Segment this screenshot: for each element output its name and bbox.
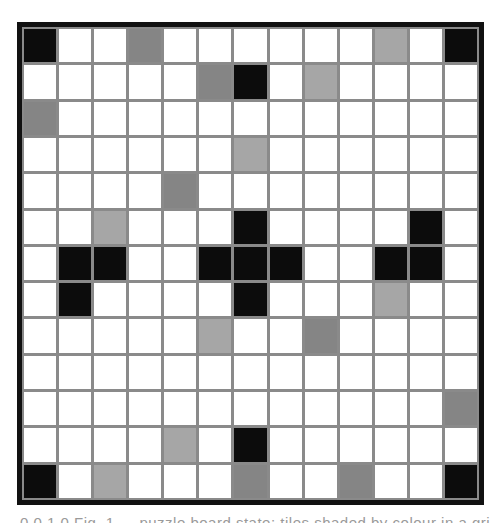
board-cell-r10-c11[interactable] — [410, 392, 442, 425]
board-cell-r4-c10[interactable] — [375, 174, 407, 207]
board-cell-r4-c12[interactable] — [445, 174, 477, 207]
board-cell-r1-c1[interactable] — [59, 65, 91, 98]
board-cell-r3-c5[interactable] — [199, 138, 231, 171]
board-cell-r0-c4[interactable] — [164, 29, 196, 62]
board-cell-r4-c2[interactable] — [94, 174, 126, 207]
board-cell-r9-c0[interactable] — [24, 356, 56, 389]
board-cell-r5-c10[interactable] — [375, 211, 407, 244]
board-cell-r6-c4[interactable] — [164, 247, 196, 280]
board-cell-r9-c8[interactable] — [305, 356, 337, 389]
board-cell-r10-c4[interactable] — [164, 392, 196, 425]
board-cell-r7-c7[interactable] — [270, 283, 302, 316]
board-cell-r5-c6[interactable] — [234, 211, 266, 244]
board-cell-r11-c0[interactable] — [24, 428, 56, 461]
board-cell-r7-c2[interactable] — [94, 283, 126, 316]
board-cell-r0-c12[interactable] — [445, 29, 477, 62]
board-cell-r5-c5[interactable] — [199, 211, 231, 244]
board-cell-r5-c2[interactable] — [94, 211, 126, 244]
board-cell-r7-c8[interactable] — [305, 283, 337, 316]
board-cell-r2-c9[interactable] — [340, 102, 372, 135]
board-cell-r9-c2[interactable] — [94, 356, 126, 389]
board-cell-r3-c2[interactable] — [94, 138, 126, 171]
board-cell-r12-c7[interactable] — [270, 465, 302, 498]
board-cell-r12-c6[interactable] — [234, 465, 266, 498]
board-cell-r5-c4[interactable] — [164, 211, 196, 244]
board-cell-r2-c8[interactable] — [305, 102, 337, 135]
board-cell-r2-c11[interactable] — [410, 102, 442, 135]
board-cell-r8-c2[interactable] — [94, 319, 126, 352]
board-cell-r10-c10[interactable] — [375, 392, 407, 425]
board-cell-r7-c1[interactable] — [59, 283, 91, 316]
board-cell-r8-c12[interactable] — [445, 319, 477, 352]
board-cell-r1-c2[interactable] — [94, 65, 126, 98]
board-cell-r0-c7[interactable] — [270, 29, 302, 62]
board-cell-r10-c8[interactable] — [305, 392, 337, 425]
board-cell-r4-c9[interactable] — [340, 174, 372, 207]
board-cell-r10-c9[interactable] — [340, 392, 372, 425]
board-cell-r1-c12[interactable] — [445, 65, 477, 98]
board-cell-r5-c0[interactable] — [24, 211, 56, 244]
board-cell-r5-c9[interactable] — [340, 211, 372, 244]
board-cell-r9-c5[interactable] — [199, 356, 231, 389]
board-cell-r6-c5[interactable] — [199, 247, 231, 280]
board-cell-r8-c8[interactable] — [305, 319, 337, 352]
board-cell-r5-c1[interactable] — [59, 211, 91, 244]
board-cell-r4-c11[interactable] — [410, 174, 442, 207]
board-cell-r9-c1[interactable] — [59, 356, 91, 389]
board-cell-r6-c8[interactable] — [305, 247, 337, 280]
board-cell-r1-c5[interactable] — [199, 65, 231, 98]
board-cell-r2-c4[interactable] — [164, 102, 196, 135]
board-cell-r7-c0[interactable] — [24, 283, 56, 316]
board-cell-r8-c7[interactable] — [270, 319, 302, 352]
board-cell-r8-c4[interactable] — [164, 319, 196, 352]
board-cell-r2-c12[interactable] — [445, 102, 477, 135]
board-cell-r12-c5[interactable] — [199, 465, 231, 498]
board-cell-r3-c7[interactable] — [270, 138, 302, 171]
board-cell-r3-c3[interactable] — [129, 138, 161, 171]
board-cell-r7-c4[interactable] — [164, 283, 196, 316]
board-cell-r12-c2[interactable] — [94, 465, 126, 498]
board-cell-r1-c3[interactable] — [129, 65, 161, 98]
board-cell-r11-c9[interactable] — [340, 428, 372, 461]
board-cell-r3-c1[interactable] — [59, 138, 91, 171]
board-cell-r2-c10[interactable] — [375, 102, 407, 135]
board-cell-r8-c0[interactable] — [24, 319, 56, 352]
board-cell-r6-c9[interactable] — [340, 247, 372, 280]
board-cell-r8-c10[interactable] — [375, 319, 407, 352]
board-cell-r2-c2[interactable] — [94, 102, 126, 135]
board-cell-r4-c7[interactable] — [270, 174, 302, 207]
board-cell-r2-c5[interactable] — [199, 102, 231, 135]
board-cell-r3-c10[interactable] — [375, 138, 407, 171]
board-cell-r3-c6[interactable] — [234, 138, 266, 171]
board-cell-r9-c6[interactable] — [234, 356, 266, 389]
board-cell-r2-c7[interactable] — [270, 102, 302, 135]
board-cell-r11-c4[interactable] — [164, 428, 196, 461]
board-cell-r8-c9[interactable] — [340, 319, 372, 352]
board-cell-r11-c3[interactable] — [129, 428, 161, 461]
board-cell-r1-c0[interactable] — [24, 65, 56, 98]
board-cell-r1-c7[interactable] — [270, 65, 302, 98]
board-cell-r5-c11[interactable] — [410, 211, 442, 244]
board-cell-r9-c4[interactable] — [164, 356, 196, 389]
board-cell-r10-c5[interactable] — [199, 392, 231, 425]
board-cell-r6-c11[interactable] — [410, 247, 442, 280]
board-cell-r10-c2[interactable] — [94, 392, 126, 425]
board-cell-r3-c12[interactable] — [445, 138, 477, 171]
board-cell-r6-c12[interactable] — [445, 247, 477, 280]
board-cell-r7-c5[interactable] — [199, 283, 231, 316]
board-cell-r4-c3[interactable] — [129, 174, 161, 207]
board-cell-r11-c6[interactable] — [234, 428, 266, 461]
board-cell-r12-c11[interactable] — [410, 465, 442, 498]
board-cell-r6-c2[interactable] — [94, 247, 126, 280]
board-cell-r12-c1[interactable] — [59, 465, 91, 498]
board-cell-r3-c0[interactable] — [24, 138, 56, 171]
board-cell-r11-c5[interactable] — [199, 428, 231, 461]
board-cell-r5-c7[interactable] — [270, 211, 302, 244]
board-cell-r0-c8[interactable] — [305, 29, 337, 62]
board-cell-r5-c12[interactable] — [445, 211, 477, 244]
board-cell-r4-c8[interactable] — [305, 174, 337, 207]
board-cell-r6-c1[interactable] — [59, 247, 91, 280]
board-cell-r12-c4[interactable] — [164, 465, 196, 498]
board-cell-r8-c11[interactable] — [410, 319, 442, 352]
board-cell-r9-c7[interactable] — [270, 356, 302, 389]
